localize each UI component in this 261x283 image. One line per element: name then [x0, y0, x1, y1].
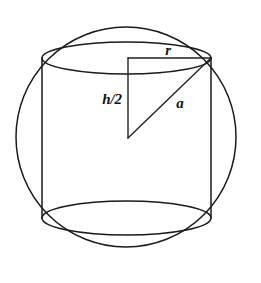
label-radius-r: r: [165, 43, 171, 58]
triangle-hypotenuse: [128, 58, 211, 138]
geometry-figure: r h/2 a: [0, 0, 261, 283]
label-slant-a: a: [176, 96, 183, 111]
cylinder-bottom-ellipse: [42, 201, 211, 235]
figure-drawing: [0, 0, 261, 283]
label-half-height-h2: h/2: [102, 92, 121, 107]
sphere-circle-outline: [16, 27, 236, 247]
